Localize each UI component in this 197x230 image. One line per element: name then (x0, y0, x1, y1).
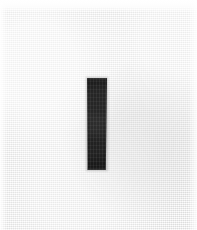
vertical-bar-fill (87, 78, 107, 170)
top-highlight-band (0, 0, 197, 11)
bar-bottom-end (87, 167, 107, 170)
right-edge-highlight (188, 0, 197, 230)
vertical-bar-mark (85, 76, 109, 172)
left-edge-highlight (0, 0, 7, 230)
image-canvas: dark vertical bar on light textured back… (0, 0, 197, 230)
bar-top-end (87, 78, 107, 81)
ink-noise-overlay (87, 78, 107, 170)
